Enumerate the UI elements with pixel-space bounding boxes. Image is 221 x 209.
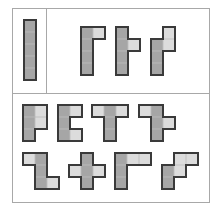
- dark-cell: [104, 129, 116, 141]
- option-1[interactable]: [23, 105, 47, 141]
- dark-cell: [35, 165, 47, 177]
- dark-cell: [81, 39, 93, 51]
- light-cell: [93, 27, 105, 39]
- dark-cell: [115, 165, 127, 177]
- light-cell: [92, 105, 104, 117]
- option-5[interactable]: [23, 153, 59, 189]
- dark-cell: [116, 27, 128, 39]
- light-cell: [174, 165, 186, 177]
- top-shape-3: [151, 27, 175, 75]
- dark-cell: [116, 39, 128, 51]
- light-cell: [70, 105, 82, 117]
- dark-cell: [24, 68, 36, 80]
- dark-cell: [58, 105, 70, 117]
- dark-cell: [23, 129, 35, 141]
- dark-cell: [151, 63, 163, 75]
- light-cell: [139, 153, 151, 165]
- light-cell: [116, 105, 128, 117]
- dark-cell: [35, 153, 47, 165]
- dark-cell: [24, 56, 36, 68]
- dark-cell: [81, 27, 93, 39]
- reference-bar: [24, 20, 36, 80]
- light-cell: [23, 153, 35, 165]
- dark-cell: [81, 63, 93, 75]
- light-cell: [174, 153, 186, 165]
- dark-cell: [115, 177, 127, 189]
- top-shape-2: [116, 27, 140, 75]
- dark-cell: [81, 165, 93, 177]
- dark-cell: [151, 51, 163, 63]
- light-cell: [139, 105, 151, 117]
- light-cell: [127, 153, 139, 165]
- dark-cell: [104, 117, 116, 129]
- dark-cell: [116, 51, 128, 63]
- dark-cell: [24, 32, 36, 44]
- light-cell: [35, 117, 47, 129]
- light-cell: [128, 39, 140, 51]
- dark-cell: [58, 117, 70, 129]
- dark-cell: [81, 51, 93, 63]
- dark-cell: [151, 39, 163, 51]
- dark-cell: [151, 117, 163, 129]
- dark-cell: [115, 153, 127, 165]
- dark-cell: [104, 105, 116, 117]
- dark-cell: [24, 20, 36, 32]
- light-cell: [47, 177, 59, 189]
- dark-cell: [23, 105, 35, 117]
- light-cell: [35, 105, 47, 117]
- light-cell: [163, 117, 175, 129]
- dark-cell: [162, 165, 174, 177]
- dark-cell: [23, 117, 35, 129]
- option-2[interactable]: [58, 105, 82, 141]
- dark-cell: [24, 44, 36, 56]
- dark-cell: [116, 63, 128, 75]
- light-cell: [69, 165, 81, 177]
- light-cell: [163, 27, 175, 39]
- top-shape-1: [81, 27, 105, 75]
- dark-cell: [151, 105, 163, 117]
- dark-cell: [151, 129, 163, 141]
- light-cell: [186, 153, 198, 165]
- option-6[interactable]: [69, 153, 105, 189]
- dark-cell: [58, 129, 70, 141]
- light-cell: [163, 39, 175, 51]
- dark-cell: [81, 153, 93, 165]
- option-8[interactable]: [162, 153, 198, 189]
- option-7[interactable]: [115, 153, 151, 189]
- dark-cell: [162, 177, 174, 189]
- light-cell: [70, 129, 82, 141]
- light-cell: [93, 165, 105, 177]
- option-3[interactable]: [92, 105, 128, 141]
- dark-cell: [81, 177, 93, 189]
- dark-cell: [35, 177, 47, 189]
- option-4[interactable]: [139, 105, 175, 141]
